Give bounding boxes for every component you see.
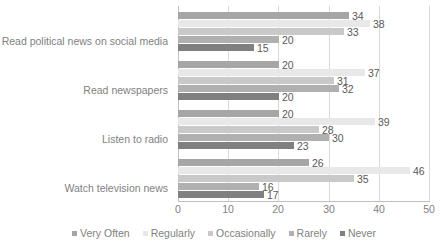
bar-row: 20 xyxy=(178,61,279,68)
legend-swatch-icon xyxy=(72,231,77,236)
bar-value-label: 30 xyxy=(329,132,344,143)
bar-very-often xyxy=(178,110,279,117)
x-tick: 40 xyxy=(373,204,385,215)
bar-regularly xyxy=(178,118,375,125)
bar-row: 26 xyxy=(178,159,309,166)
bar-occasionally xyxy=(178,77,334,84)
bar-value-label: 33 xyxy=(344,26,359,37)
bar-regularly xyxy=(178,167,410,174)
bar-very-often xyxy=(178,61,279,68)
bar-row: 15 xyxy=(178,44,254,51)
chart-legend: Very Often Regularly Occasionally Rarely… xyxy=(0,228,448,239)
bar-row: 17 xyxy=(178,191,264,198)
bar-row: 33 xyxy=(178,28,344,35)
bar-row: 32 xyxy=(178,85,339,92)
category-label: Watch television news xyxy=(65,183,169,194)
bar-occasionally xyxy=(178,28,344,35)
bar-value-label: 38 xyxy=(370,18,385,29)
bar-value-label: 35 xyxy=(354,173,369,184)
bar-very-often xyxy=(178,159,309,166)
bar-value-label: 46 xyxy=(410,165,425,176)
legend-label: Occasionally xyxy=(216,228,276,239)
bar-row: 20 xyxy=(178,93,279,100)
x-tick: 50 xyxy=(423,204,435,215)
bar-value-label: 39 xyxy=(375,116,390,127)
bar-row: 31 xyxy=(178,77,334,84)
bar-row: 39 xyxy=(178,118,375,125)
bar-value-label: 32 xyxy=(339,83,354,94)
bar-value-label: 23 xyxy=(294,140,309,151)
legend-item-regularly[interactable]: Regularly xyxy=(143,228,195,239)
x-tick: 20 xyxy=(272,204,284,215)
plot-area: 34 38 33 20 15 20 xyxy=(178,6,430,202)
legend-label: Rarely xyxy=(297,228,327,239)
bar-never xyxy=(178,93,279,100)
bar-row: 34 xyxy=(178,12,349,19)
legend-item-never[interactable]: Never xyxy=(340,228,376,239)
bar-rarely xyxy=(178,183,259,190)
bar-value-label: 20 xyxy=(279,34,294,45)
bar-value-label: 17 xyxy=(264,189,279,200)
bar-row: 23 xyxy=(178,142,294,149)
bar-never xyxy=(178,142,294,149)
legend-swatch-icon xyxy=(289,231,294,236)
bar-value-label: 15 xyxy=(254,42,269,53)
bar-rarely xyxy=(178,85,339,92)
bar-never xyxy=(178,191,264,198)
bar-row: 38 xyxy=(178,20,370,27)
bar-group: 34 38 33 20 15 xyxy=(178,10,430,59)
bar-group: 20 37 31 32 20 xyxy=(178,59,430,108)
bar-row: 46 xyxy=(178,167,410,174)
bar-never xyxy=(178,44,254,51)
legend-label: Never xyxy=(348,228,376,239)
legend-label: Regularly xyxy=(151,228,195,239)
category-label: Read newspapers xyxy=(83,85,168,96)
bar-group: 26 46 35 16 17 xyxy=(178,157,430,206)
x-tick: 30 xyxy=(323,204,335,215)
legend-item-rarely[interactable]: Rarely xyxy=(289,228,327,239)
legend-item-occasionally[interactable]: Occasionally xyxy=(208,228,276,239)
legend-swatch-icon xyxy=(143,231,148,236)
bar-value-label: 20 xyxy=(279,91,294,102)
category-label: Read political news on social media xyxy=(2,36,168,47)
category-axis-labels: Read political news on social media Read… xyxy=(0,6,172,202)
legend-item-very-often[interactable]: Very Often xyxy=(72,228,130,239)
bar-chart: Read political news on social media Read… xyxy=(0,0,448,251)
legend-swatch-icon xyxy=(340,231,345,236)
x-axis-tick-labels: 0 10 20 30 40 50 xyxy=(178,204,430,220)
bar-value-label: 37 xyxy=(365,67,380,78)
x-tick: 0 xyxy=(175,204,181,215)
bar-very-often xyxy=(178,12,349,19)
bar-occasionally xyxy=(178,126,319,133)
bar-row: 20 xyxy=(178,110,279,117)
x-tick: 10 xyxy=(222,204,234,215)
category-label: Listen to radio xyxy=(102,134,168,145)
bar-regularly xyxy=(178,20,370,27)
legend-label: Very Often xyxy=(80,228,130,239)
bar-group: 20 39 28 30 23 xyxy=(178,108,430,157)
legend-swatch-icon xyxy=(208,231,213,236)
bar-row: 16 xyxy=(178,183,259,190)
bar-row: 28 xyxy=(178,126,319,133)
